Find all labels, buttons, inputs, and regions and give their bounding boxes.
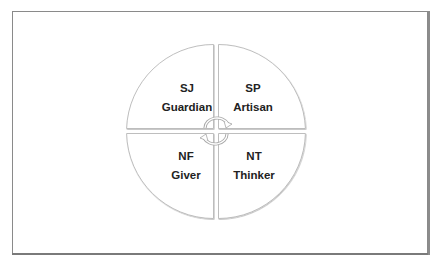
quadrant-label-top-right: SP Artisan: [213, 81, 293, 114]
quadrant-name: Thinker: [214, 168, 294, 182]
quadrant-label-bottom-right: NT Thinker: [214, 149, 294, 182]
quadrant-name: Artisan: [213, 100, 293, 114]
quadrant-circle: [0, 0, 444, 259]
quadrant-code: NT: [214, 149, 294, 163]
quadrant-code: SP: [213, 81, 293, 95]
